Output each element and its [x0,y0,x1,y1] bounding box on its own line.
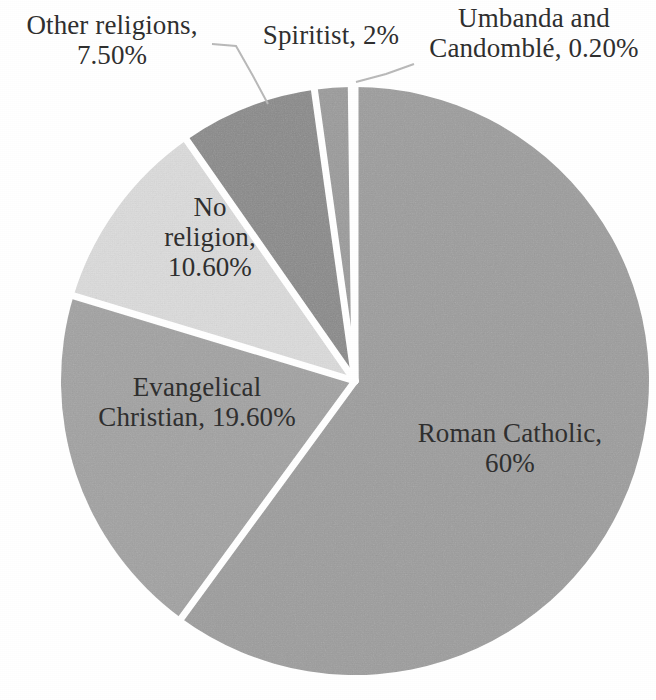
pie-label-roman-catholic: Roman Catholic, 60% [382,418,638,478]
pie-label-no-religion-line2: religion, [126,222,294,252]
pie-label-roman-catholic-line2: 60% [382,448,638,478]
pie-label-no-religion-line1: No [126,192,294,222]
pie-label-umbanda-candomble-line1: Umbanda and [414,3,654,33]
pie-label-evangelical-christian: Evangelical Christian, 19.60% [52,372,342,432]
pie-label-other-religions-line1: Other religions, [6,10,218,40]
pie-label-no-religion: No religion, 10.60% [126,192,294,283]
pie-label-roman-catholic-line1: Roman Catholic, [382,418,638,448]
pie-label-evangelical-christian-line1: Evangelical [52,372,342,402]
pie-label-spiritist: Spiritist, 2% [238,20,424,50]
leader-line-other-religions [212,44,268,104]
pie-label-umbanda-candomble-line2: Candomblé, 0.20% [414,33,654,63]
pie-label-evangelical-christian-line2: Christian, 19.60% [52,402,342,432]
pie-label-no-religion-line3: 10.60% [126,252,294,282]
pie-chart-figure: Other religions, 7.50% Spiritist, 2% Umb… [0,0,656,700]
pie-label-umbanda-candomble: Umbanda and Candomblé, 0.20% [414,3,654,63]
pie-label-other-religions-line2: 7.50% [6,40,218,70]
pie-label-spiritist-line1: Spiritist, 2% [238,20,424,50]
pie-label-other-religions: Other religions, 7.50% [6,10,218,70]
pie-chart-graphic [0,0,656,700]
leader-line-umbanda-candomble [356,64,414,82]
